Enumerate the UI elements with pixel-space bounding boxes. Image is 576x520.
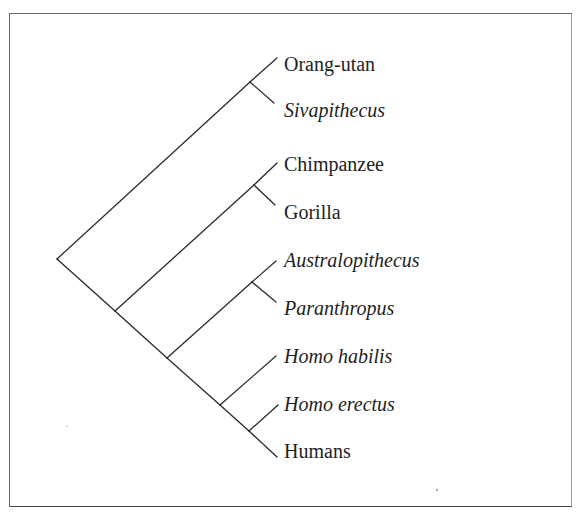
branch-chimpanzee xyxy=(254,163,277,185)
branch-node3-to-node4 xyxy=(167,358,220,405)
taxon-label-orang-utan: Orang-utan xyxy=(284,53,375,75)
branch-humans xyxy=(249,431,277,457)
branch-node3-to-australopith-clade xyxy=(167,282,252,358)
scan-speck xyxy=(436,489,438,491)
branch-orang-utan xyxy=(250,58,277,82)
branch-sivapithecus xyxy=(250,82,274,103)
taxon-label-homo-erectus: Homo erectus xyxy=(284,393,395,415)
branch-australopithecus xyxy=(252,261,276,282)
branch-gorilla xyxy=(254,185,275,205)
branch-node4-to-node5 xyxy=(220,405,249,431)
branch-homo-erectus xyxy=(249,405,278,431)
taxon-label-gorilla: Gorilla xyxy=(284,201,341,223)
branch-root-to-orang-clade xyxy=(57,82,250,259)
branch-node2-to-african-ape-clade xyxy=(115,185,254,311)
taxon-label-sivapithecus: Sivapithecus xyxy=(284,99,385,121)
branch-node2-to-node3 xyxy=(115,311,167,358)
taxon-label-australopithecus: Australopithecus xyxy=(284,249,420,271)
branch-paranthropus xyxy=(252,282,276,302)
taxon-label-homo-habilis: Homo habilis xyxy=(284,345,392,367)
branch-homo-habilis xyxy=(220,356,276,405)
taxon-label-chimpanzee: Chimpanzee xyxy=(284,153,384,175)
taxon-label-paranthropus: Paranthropus xyxy=(284,297,394,319)
scan-speck xyxy=(66,425,68,427)
branch-root-to-node2 xyxy=(57,259,115,311)
taxon-label-humans: Humans xyxy=(284,440,351,462)
